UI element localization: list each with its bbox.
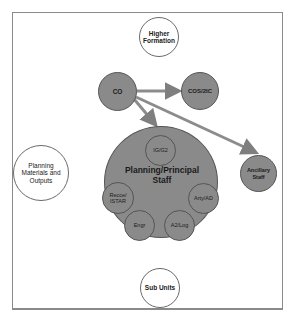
node-cos-2ic-label: COS/2IC — [188, 88, 212, 95]
node-co: CO — [98, 72, 137, 111]
node-a2-log-label: A2/Log — [171, 222, 188, 228]
node-cos-2ic: COS/2IC — [181, 72, 219, 110]
node-sub-units-label: Sub Units — [145, 284, 175, 291]
node-planning-materials-label: Planning Materials and Outputs — [20, 162, 62, 184]
planning-principal-staff-label: Planning/Principal Staff — [124, 165, 200, 185]
node-ig-g2: IG/G2 — [145, 135, 176, 166]
node-recce-istar-label: Recce/ ISTAR — [106, 192, 130, 205]
node-ancillary-staff-label: Ancillary Staff — [247, 167, 270, 180]
node-ancillary-staff: Ancillary Staff — [240, 155, 277, 192]
node-arty-ad: Arty/AD — [188, 183, 219, 214]
node-engr-label: Engr — [134, 222, 146, 228]
node-sub-units: Sub Units — [140, 268, 180, 308]
node-ig-g2-label: IG/G2 — [153, 147, 168, 153]
node-engr: Engr — [124, 210, 155, 241]
node-co-label: CO — [113, 88, 123, 95]
node-planning-materials-outputs: Planning Materials and Outputs — [13, 145, 69, 201]
node-higher-formation-label: Higher Formation — [140, 30, 178, 45]
node-recce-istar: Recce/ ISTAR — [102, 182, 134, 214]
node-arty-ad-label: Arty/AD — [194, 195, 213, 201]
node-higher-formation: Higher Formation — [139, 17, 179, 57]
node-a2-log: A2/Log — [164, 210, 195, 241]
